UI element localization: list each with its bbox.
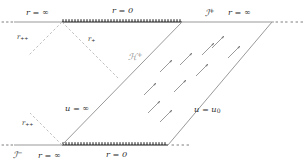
diagram-canvas <box>0 0 306 167</box>
r-plus-plus-dashed-upper <box>28 22 62 56</box>
ray-arrow <box>212 36 224 48</box>
r-plus-plus-lower-subscript: ++ <box>25 121 33 127</box>
label-inner-r-plus: r+ <box>88 36 95 43</box>
label-scri-plus: ℐ+ <box>205 8 215 18</box>
label-event-horizon: ℋ+ <box>128 52 143 62</box>
label-left-lower-r-plus-plus: r++ <box>22 120 33 127</box>
inner-horizon-dashed-lines <box>28 22 118 145</box>
label-top-right-r-infinity: r = ∞ <box>228 8 251 16</box>
ray-arrow <box>144 83 156 95</box>
label-u-equals-u0: u = u0 <box>194 105 220 114</box>
label-top-center-r-zero: r = 0 <box>112 6 133 14</box>
ray-arrow <box>160 110 172 122</box>
r-plus-subscript: + <box>91 37 95 43</box>
scri-minus-superscript: − <box>17 149 23 157</box>
label-scri-minus: ℐ− <box>13 150 23 160</box>
r-plus-plus-subscript: ++ <box>20 35 28 41</box>
ray-arrow <box>160 60 172 72</box>
outgoing-ray-arrows <box>144 36 240 122</box>
u0-subscript: 0 <box>217 107 221 114</box>
ray-arrow <box>174 80 186 92</box>
ray-arrow <box>196 64 208 76</box>
ray-arrow <box>202 43 214 55</box>
top-singularity-line <box>62 19 182 22</box>
horizon-superscript: + <box>137 51 143 59</box>
bottom-singularity-line <box>62 142 168 145</box>
label-left-upper-r-plus-plus: r++ <box>17 34 28 41</box>
ray-arrow <box>148 101 160 113</box>
horizontal-infinity-rules <box>14 22 274 145</box>
label-bottom-center-r-zero: r = 0 <box>106 150 127 158</box>
label-top-left-r-infinity: r = ∞ <box>26 8 49 16</box>
infinity-continuation-dots <box>2 22 303 145</box>
scri-plus-superscript: + <box>209 7 215 15</box>
ray-arrow <box>228 46 240 58</box>
ray-arrow <box>180 53 192 65</box>
conformal-diagram-figure: r = ∞ r = 0 ℐ+ r = ∞ r++ r+ ℋ+ u = ∞ u =… <box>0 0 306 167</box>
label-u-equals-infinity: u = ∞ <box>65 104 89 112</box>
label-bottom-left-r-infinity: r = ∞ <box>38 151 61 159</box>
r-plus-dashed <box>62 22 118 78</box>
r-plus-plus-dashed-lower <box>30 113 62 145</box>
